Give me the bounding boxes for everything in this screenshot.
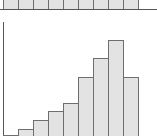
histogram-bar [63, 103, 79, 136]
histogram-bar [93, 58, 109, 136]
histogram-bar [123, 77, 139, 136]
histogram-bar [3, 135, 19, 136]
histogram-bar [18, 129, 34, 136]
top-x-axis [0, 9, 157, 10]
bottom-histogram-panel [0, 20, 157, 136]
histogram-bar [108, 40, 124, 136]
histogram-bar [48, 111, 64, 136]
histogram-bar [78, 77, 94, 136]
histogram-bar [33, 120, 49, 136]
top-histogram-panel [0, 0, 157, 12]
bottom-y-axis [3, 22, 4, 136]
